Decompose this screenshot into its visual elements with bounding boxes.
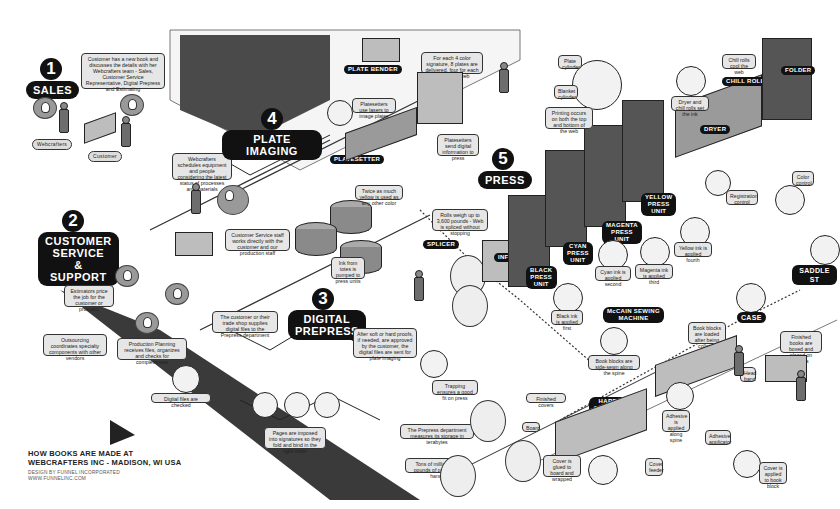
step-label: SALES — [26, 81, 79, 99]
title-line-2: WEBCRAFTERS INC - MADISON, WI USA — [28, 458, 181, 467]
callout-cyan-ink: Cyan ink is applied second — [595, 266, 631, 281]
callout-board: Board — [522, 422, 540, 432]
cs-desk — [175, 232, 213, 256]
idea-bulb-icon — [135, 312, 159, 334]
callout-estimators: Estimators price the job for the custome… — [64, 285, 114, 307]
callout-dryer-chill: Dryer and chill rolls set the ink — [671, 96, 709, 111]
web-roll — [452, 285, 488, 327]
plate-handler-figure — [498, 62, 508, 92]
callout-blanket-cylinder: Blanket cylinder — [554, 85, 578, 99]
callout-rolls-weigh: Rolls weigh up to 3,600 pounds - Web is … — [432, 209, 488, 231]
step-number: 1 — [40, 58, 62, 80]
registration-magnifier — [705, 170, 731, 196]
step-digital-prepress: 3 DIGITAL PREPRESS — [288, 288, 358, 340]
tag-plate-bender: PLATE BENDER — [344, 65, 402, 74]
magenta-ink-magnifier — [640, 237, 670, 267]
idea-bulb-icon — [165, 283, 189, 305]
black-ink-magnifier — [553, 283, 583, 313]
signature-magnifier-1 — [252, 392, 278, 418]
tag-splicer: SPLICER — [423, 240, 459, 249]
color-magnifier — [775, 185, 805, 215]
callout-pages-imposed: Pages are imposed into signatures so the… — [264, 427, 326, 449]
design-credit: DESIGN BY FUNNEL INCORPORATED WWW.FUNNEL… — [28, 470, 120, 482]
callout-digital-checked: Digital files are checked — [151, 393, 211, 403]
tag-saddle-stitch: SADDLE ST — [792, 265, 837, 285]
laser-magnifier — [327, 100, 353, 126]
step-number: 3 — [312, 288, 334, 310]
idea-bulb-icon — [217, 185, 249, 215]
magenta-press-unit — [584, 125, 626, 227]
idea-bulb-icon — [33, 97, 57, 119]
callout-proofs: After soft or hard proofs, if needed, ar… — [353, 328, 417, 358]
step-label: PLATE IMAGING — [222, 130, 322, 160]
callout-cover-applied: Cover is applied to book block — [759, 462, 787, 484]
step-number: 2 — [62, 210, 84, 232]
callout-production-planning: Production Planning receives files, orga… — [117, 338, 187, 360]
callout-ink-totes: Ink from totes is pumped to press units — [331, 257, 365, 279]
salesperson-figure — [58, 102, 68, 132]
callout-cs-staff: Customer Service staff works directly wi… — [225, 229, 290, 251]
plate-bender-machine — [362, 38, 400, 62]
tag-folder: FOLDER — [781, 66, 815, 75]
tag-yellow-press-unit: YELLOW PRESS UNIT — [641, 193, 676, 216]
title-line-1: HOW BOOKS ARE MADE AT — [28, 449, 181, 458]
cyan-press-unit — [545, 150, 587, 247]
case-magnifier — [736, 283, 766, 313]
tag-mccain-sewing: McCAIN SEWING MACHINE — [603, 307, 664, 323]
tag-black-press-unit: BLACK PRESS UNIT — [526, 266, 557, 289]
callout-color-control: Color control — [792, 171, 814, 186]
tag-cyan-press-unit: CYAN PRESS UNIT — [563, 242, 593, 265]
paper-roll — [505, 440, 541, 482]
callout-prepress-storage: The Prepress department measures its sto… — [400, 424, 474, 439]
callout-trapping: Trapping ensures a good fit on press — [432, 380, 478, 395]
step-sales: 1 SALES — [26, 58, 76, 99]
ink-tote — [295, 222, 335, 260]
callout-cover-glued: Cover is glued to board and wrapped — [543, 455, 581, 477]
customer-figure — [120, 116, 130, 146]
callout-cover-feeder: Cover feeder — [645, 458, 663, 476]
splicer-operator-figure — [413, 270, 423, 300]
idea-bulb-icon — [120, 94, 144, 116]
step-label: CUSTOMER SERVICE & SUPPORT — [38, 232, 119, 286]
step-number: 5 — [492, 148, 514, 170]
callout-outsourcing: Outsourcing coordinates specialty compon… — [43, 334, 107, 356]
callout-printing-both: Printing occurs on both the top and bott… — [545, 107, 593, 129]
callout-sales-discussion: Customer has a new book and discusses th… — [81, 53, 165, 89]
callout-black-ink: Black ink is applied first — [551, 310, 583, 325]
step-label: PRESS — [478, 171, 532, 189]
yellow-press-unit — [622, 100, 664, 202]
step-plate-imaging: 4 PLATE IMAGING — [222, 108, 322, 160]
callout-finished-covers: Finished covers — [526, 393, 566, 403]
infographic-title: HOW BOOKS ARE MADE AT WEBCRAFTERS INC - … — [28, 449, 181, 467]
callout-magenta-ink: Magenta ink is applied third — [635, 264, 673, 279]
callout-registration-control: Registration control — [726, 190, 758, 205]
paper-roll — [440, 455, 476, 497]
saddle-stitch-magnifier — [810, 235, 840, 265]
callout-yellow-ink: Yellow ink is applied fourth — [674, 242, 712, 257]
cover-glued-magnifier — [588, 455, 618, 485]
callout-finished-books: Finished books are boxed and placed on p… — [780, 331, 822, 353]
adhesive-magnifier — [666, 382, 694, 410]
cover-applied-magnifier — [733, 450, 761, 478]
callout-four-color: For each 4 color signature, 8 plates are… — [421, 52, 483, 74]
tag-customer: Customer — [88, 151, 122, 162]
dryer-magnifier — [676, 66, 706, 96]
tag-case: CASE — [737, 312, 766, 323]
bindery-operator-figure — [733, 345, 743, 375]
signature-magnifier-2 — [284, 392, 310, 418]
tag-webcrafters: Webcrafters — [32, 139, 72, 150]
callout-plate-cylinder: Plate cylinder — [558, 55, 582, 69]
callout-trade-shop: The customer or their trade shop supplie… — [212, 311, 278, 333]
callout-platesetters-lasers: Platesetters use lasers to image plates — [352, 98, 396, 113]
sewing-magnifier — [600, 327, 628, 355]
idea-bulb-icon — [115, 265, 139, 287]
paper-roll — [470, 400, 506, 442]
trapping-magnifier — [420, 350, 448, 378]
packer-figure — [795, 370, 805, 400]
files-check-magnifier — [172, 365, 200, 393]
callout-adhesive-spine: Adhesive is applied along spine — [662, 410, 690, 432]
plate-processor — [417, 72, 463, 124]
signature-magnifier-3 — [314, 392, 340, 418]
credit-url: WWW.FUNNELINC.COM — [28, 476, 120, 482]
